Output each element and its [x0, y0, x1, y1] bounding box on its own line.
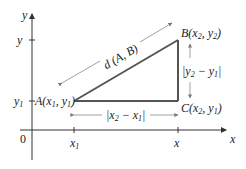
origin-label: 0 — [20, 132, 26, 146]
point-c-label: C(x2, y1) — [181, 101, 222, 116]
point-a-label: A(x1, y1) — [34, 94, 75, 109]
tick-x2: x — [173, 136, 180, 150]
tick-x1: x1 — [69, 136, 79, 151]
horizontal-distance-label: |x2 − x1| — [106, 108, 145, 123]
vertical-distance-label: |y2 − y1| — [182, 64, 221, 79]
y-axis-label: y — [21, 8, 28, 22]
tick-y1: y1 — [13, 94, 23, 109]
distance-diagram: y x 0 y y1 x1 x d (A, B) |x2 − x1| |y2 −… — [0, 0, 246, 169]
tick-y2: y — [16, 33, 23, 47]
x-axis-label: x — [229, 132, 236, 146]
distance-label: d (A, B) — [101, 41, 141, 72]
point-b-label: B(x2, y2) — [181, 26, 221, 41]
